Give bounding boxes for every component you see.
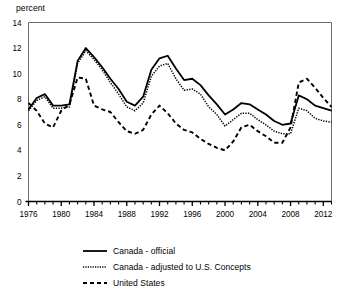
legend-line-dashed-icon	[82, 278, 108, 288]
legend-item: Canada - official	[82, 243, 332, 259]
legend-line-solid-icon	[82, 246, 108, 256]
y-tick-label: 4	[17, 146, 22, 155]
y-tick-label: 2	[17, 172, 22, 181]
legend-item: United States	[82, 275, 332, 291]
data-series-group	[29, 48, 332, 150]
y-tick-label: 10	[12, 70, 22, 79]
x-tick-label: 2000	[216, 210, 235, 219]
legend-label-united-states: United States	[113, 278, 165, 288]
x-tick-label: 1976	[19, 210, 38, 219]
plot-frame	[26, 23, 332, 202]
legend-line-dotted-icon	[82, 262, 108, 272]
x-tick-label: 1988	[118, 210, 137, 219]
series-line-2	[29, 51, 332, 134]
x-tick-label: 1980	[52, 210, 71, 219]
y-tick-label: 8	[17, 95, 22, 104]
x-axis-tick-labels: 1976198019841988199219962000200420082012	[19, 210, 332, 219]
chart-figure: percent 02468101214 19761980198419881992…	[0, 0, 347, 300]
legend-label-canada-official: Canada - official	[113, 246, 175, 256]
y-tick-label: 12	[12, 44, 22, 53]
x-tick-label: 2004	[249, 210, 268, 219]
x-tick-label: 1984	[85, 210, 104, 219]
chart-legend: Canada - official Canada - adjusted to U…	[82, 243, 332, 291]
x-tick-label: 2012	[314, 210, 333, 219]
x-tick-label: 1992	[150, 210, 169, 219]
y-tick-label: 14	[12, 19, 22, 28]
y-tick-label: 6	[17, 121, 22, 130]
y-axis-tick-labels: 02468101214	[12, 19, 22, 207]
x-tick-label: 2008	[281, 210, 300, 219]
series-line-3	[29, 77, 332, 150]
x-tick-label: 1996	[183, 210, 202, 219]
legend-item: Canada - adjusted to U.S. Concepts	[82, 259, 332, 275]
legend-label-canada-adjusted: Canada - adjusted to U.S. Concepts	[113, 262, 251, 272]
y-tick-label: 0	[17, 198, 22, 207]
